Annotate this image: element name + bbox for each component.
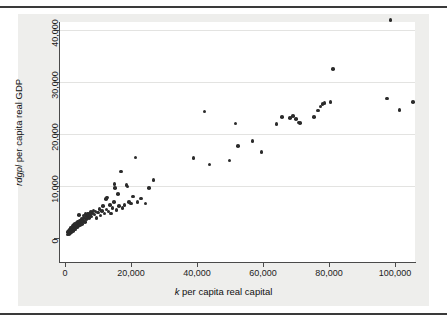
- scatter-point: [109, 212, 113, 216]
- scatter-point: [119, 170, 123, 174]
- scatter-point: [389, 18, 393, 22]
- scatter-point: [136, 200, 140, 204]
- scatter-point: [113, 186, 117, 190]
- scatter-point: [111, 206, 115, 210]
- scatter-point: [134, 156, 138, 160]
- x-axis-title: k per capita real capital: [0, 286, 447, 297]
- y-axis-title-text: per capita real GDP: [13, 79, 24, 165]
- scatter-point: [203, 110, 207, 114]
- scatter-point: [329, 100, 333, 104]
- scatter-point: [144, 202, 148, 206]
- scatter-point: [208, 163, 212, 167]
- scatter-point: [398, 108, 402, 112]
- scatter-point: [116, 192, 120, 196]
- scatter-point: [129, 202, 133, 206]
- scatter-point: [228, 159, 232, 163]
- scatter-point: [105, 196, 109, 200]
- scatter-point: [260, 150, 264, 154]
- figure-container: 010,00020,00030,00040,000 020,00040,0006…: [0, 0, 447, 324]
- scatter-point: [192, 156, 196, 160]
- scatter-point: [103, 212, 107, 216]
- scatter-point: [131, 195, 135, 199]
- scatter-point: [115, 208, 119, 212]
- scatter-point: [280, 115, 284, 119]
- scatter-point: [312, 115, 316, 119]
- scatter-point: [112, 200, 116, 204]
- y-axis-title: rdgpl per capita real GDP: [13, 79, 24, 186]
- scatter-point: [411, 100, 415, 104]
- scatter-point: [95, 216, 99, 220]
- scatter-point: [99, 214, 103, 218]
- scatter-point: [323, 101, 327, 105]
- scatter-point: [234, 122, 238, 126]
- x-axis-title-text: per capita real capital: [179, 286, 272, 297]
- scatter-point: [298, 121, 302, 125]
- scatter-point: [316, 109, 320, 113]
- scatter-point: [147, 186, 151, 190]
- scatter-point: [152, 178, 156, 182]
- scatter-point: [121, 206, 125, 210]
- scatter-point: [236, 144, 240, 148]
- scatter-point: [126, 185, 130, 189]
- scatter-point: [331, 67, 335, 71]
- y-axis-title-var: rdgpl: [13, 165, 24, 186]
- scatter-points: [0, 0, 447, 324]
- scatter-point: [139, 197, 143, 201]
- scatter-point: [385, 97, 389, 101]
- scatter-point: [113, 182, 117, 186]
- scatter-point: [251, 139, 255, 143]
- scatter-point: [123, 203, 127, 207]
- scatter-point: [275, 122, 279, 126]
